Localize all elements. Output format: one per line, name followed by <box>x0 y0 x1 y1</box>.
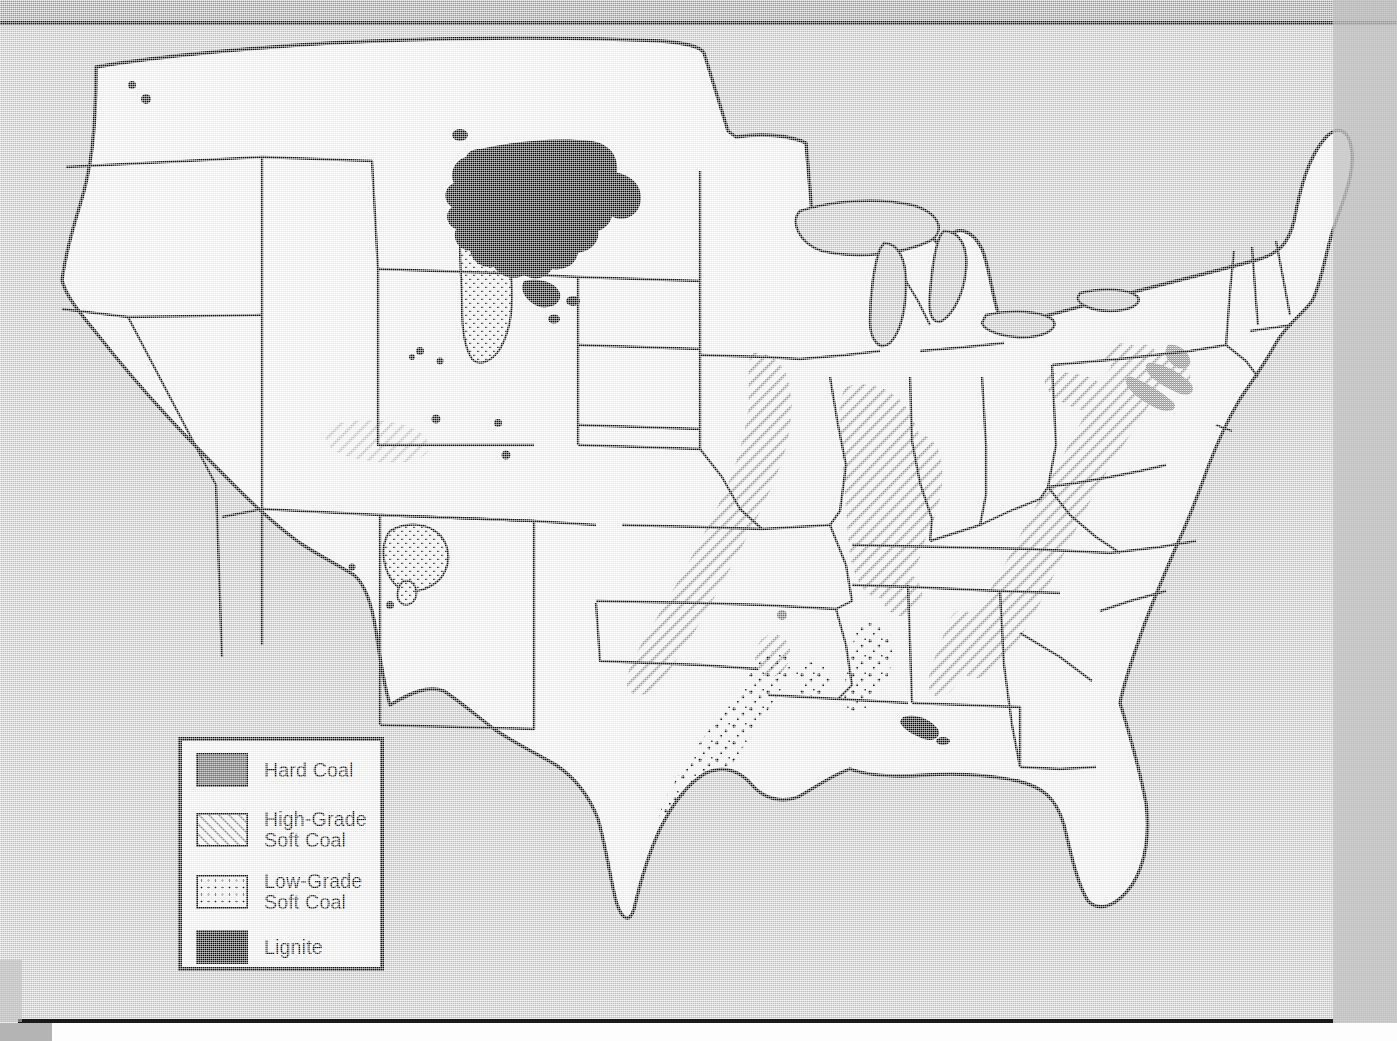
legend-label-hard-coal: Hard Coal <box>264 760 354 781</box>
outlier-dot-utah-1 <box>409 354 415 360</box>
legend-item-lignite: Lignite <box>182 923 380 971</box>
outlier-dot-wa-2 <box>141 94 151 104</box>
outlier-dot-wyoming-1 <box>416 347 424 355</box>
outlier-dot-colorado-1 <box>432 415 441 424</box>
region-lignite-alabama-dot <box>936 737 950 745</box>
legend-swatch-high-grade-soft-coal <box>196 813 248 847</box>
scanned-page: Hard Coal High-Grade Soft Coal Low-Grade… <box>0 0 1397 1041</box>
map-legend: Hard Coal High-Grade Soft Coal Low-Grade… <box>178 737 384 971</box>
outlier-dot-wyoming-2 <box>437 358 444 365</box>
outlier-dot-colorado-3 <box>502 451 511 460</box>
region-low-grade-san-juan <box>384 525 449 592</box>
legend-swatch-low-grade-soft-coal <box>196 875 248 909</box>
legend-item-high-grade-soft-coal: High-Grade Soft Coal <box>182 799 380 861</box>
page-header-band <box>0 0 1397 22</box>
legend-label-low-grade-soft-coal: Low-Grade Soft Coal <box>264 871 362 913</box>
legend-label-high-grade-soft-coal: High-Grade Soft Coal <box>264 809 367 851</box>
legend-item-low-grade-soft-coal: Low-Grade Soft Coal <box>182 861 380 923</box>
page-right-edge-shadow <box>1333 0 1397 1041</box>
region-lignite-sd-dot2 <box>548 315 560 324</box>
outlier-dot-arkansas <box>777 610 787 620</box>
legend-label-lignite: Lignite <box>264 937 323 958</box>
outlier-dot-nm-1 <box>386 601 394 609</box>
legend-swatch-lignite <box>196 930 248 964</box>
region-low-grade-san-juan-tail <box>397 581 416 605</box>
legend-item-hard-coal: Hard Coal <box>182 741 380 799</box>
outlier-dot-wa-1 <box>128 81 136 89</box>
legend-swatch-hard-coal <box>196 753 248 787</box>
outlier-dot-colorado-2 <box>494 419 502 427</box>
page-left-edge-shadow <box>0 960 22 1022</box>
region-lignite-mt-west-dot <box>452 129 468 141</box>
lake-superior <box>796 201 939 255</box>
lake-ontario <box>1078 290 1139 311</box>
page-footer-area <box>0 1023 1397 1041</box>
outlier-dot-nm-2 <box>349 564 356 571</box>
page-footer-left-block <box>0 1023 52 1041</box>
